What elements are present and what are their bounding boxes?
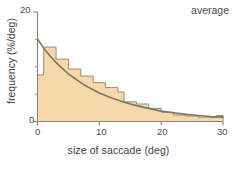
x-axis-label: size of saccade (deg) (0, 144, 237, 156)
x-axis-tick-label-20: 20 (157, 127, 168, 137)
chart-figure: 20 0 0 10 20 30 size of saccade (deg) fr… (0, 0, 237, 172)
chart-annotation-average: average (191, 4, 229, 16)
histogram-step-area (38, 47, 224, 121)
x-axis-tick-label-0: 0 (35, 127, 40, 137)
x-axis-tick-label-30: 30 (217, 127, 228, 137)
x-axis-tick-label-10: 10 (96, 127, 107, 137)
y-axis-tick-label-20: 20 (20, 5, 31, 15)
histogram-bars (38, 47, 224, 121)
y-axis-tick-label-0: 0 (29, 115, 34, 125)
y-axis-label: frequency (%/deg) (5, 6, 17, 116)
